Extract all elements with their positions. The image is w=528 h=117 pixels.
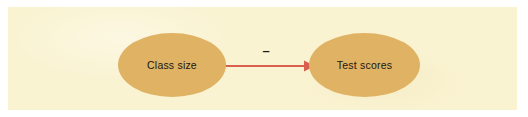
node-class-size-label: Class size	[147, 60, 197, 71]
node-test-scores-label: Test scores	[337, 60, 392, 71]
causal-diagram: – Class size Test scores	[0, 0, 528, 117]
edge-sign-negative: –	[251, 44, 281, 58]
diagram-panel: – Class size Test scores	[8, 7, 517, 110]
edge-class-size-to-test-scores	[218, 55, 318, 77]
node-test-scores[interactable]: Test scores	[309, 33, 420, 97]
node-class-size[interactable]: Class size	[118, 33, 226, 97]
arrow-icon	[218, 55, 318, 77]
